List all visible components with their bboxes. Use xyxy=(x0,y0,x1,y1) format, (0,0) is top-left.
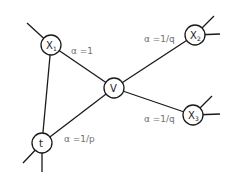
node-x3-subscript: 3 xyxy=(195,115,199,122)
node-t-label: t xyxy=(39,138,43,149)
node-v-label: V xyxy=(110,83,117,94)
edge-label-t-v: α =1/p xyxy=(64,134,95,144)
node-x2: X 2 xyxy=(185,25,205,45)
node-x2-label: X xyxy=(190,30,197,41)
random-walk-diagram: α =1 α =1/q α =1/p α =1/q X 1 V X 2 X 3 … xyxy=(0,0,234,184)
edge-label-x1-v: α =1 xyxy=(71,46,93,56)
node-x3: X 3 xyxy=(183,105,203,125)
edge-label-v-x3: α =1/q xyxy=(144,114,175,124)
node-x1-label: X xyxy=(46,40,53,51)
node-x1-subscript: 1 xyxy=(53,45,57,52)
node-x2-subscript: 2 xyxy=(197,35,201,42)
node-x1: X 1 xyxy=(41,35,61,55)
edge-v-x3 xyxy=(114,88,193,115)
edge-t-x1 xyxy=(42,45,51,143)
node-t: t xyxy=(32,133,52,153)
edge-label-v-x2: α =1/q xyxy=(144,34,175,44)
node-v: V xyxy=(104,78,124,98)
node-x3-label: X xyxy=(188,110,195,121)
